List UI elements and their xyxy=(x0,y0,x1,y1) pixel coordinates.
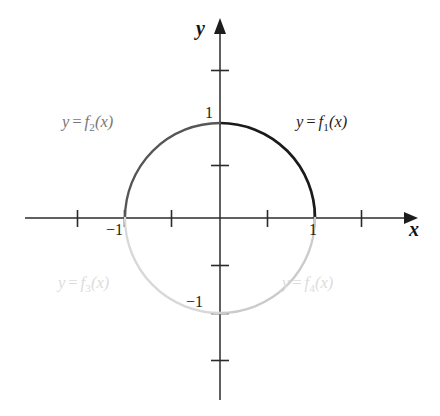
curve-label-f3-equals: = xyxy=(65,273,80,292)
x-tick-label-pos1: 1 xyxy=(309,222,317,238)
curve-label-f4-arg: (x) xyxy=(315,273,333,292)
y-axis-label: y xyxy=(196,18,205,38)
curve-label-f2: y=f2(x) xyxy=(62,114,113,133)
curve-label-f4: y=f4(x) xyxy=(282,275,333,294)
curve-label-f3: y=f3(x) xyxy=(58,275,109,294)
y-tick-label-neg1: −1 xyxy=(186,294,203,310)
x-axis-label: x xyxy=(409,219,419,239)
y-tick-label-pos1: 1 xyxy=(205,105,213,121)
curve-label-f1: y=f1(x) xyxy=(296,114,347,133)
curve-f4-arc xyxy=(220,218,315,313)
curve-label-f2-arg: (x) xyxy=(95,112,113,131)
curve-label-f1-equals: = xyxy=(303,112,318,131)
curve-label-f2-equals: = xyxy=(69,112,84,131)
curve-f2-arc xyxy=(125,123,220,218)
graph-figure: x y −1 1 1 −1 y=f1(x) y=f2(x) y=f3(x) y=… xyxy=(0,0,440,416)
coordinate-plot xyxy=(0,0,440,416)
x-tick-label-neg1: −1 xyxy=(106,222,123,238)
curve-label-f1-arg: (x) xyxy=(329,112,347,131)
curve-f3-arc xyxy=(125,218,220,313)
y-axis-arrowhead xyxy=(214,18,226,34)
curve-label-f4-equals: = xyxy=(289,273,304,292)
curve-label-f3-arg: (x) xyxy=(91,273,109,292)
curve-f1-arc xyxy=(220,123,315,218)
